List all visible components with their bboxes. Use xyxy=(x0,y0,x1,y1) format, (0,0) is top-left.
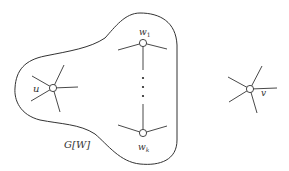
label-v: v xyxy=(261,88,266,98)
label-region-gw: G[W] xyxy=(64,139,90,150)
diagram-canvas: u w1 wk G[W] xyxy=(0,0,289,171)
node-wk-edges xyxy=(118,104,167,133)
label-w1: w1 xyxy=(139,27,151,38)
node-v xyxy=(246,85,253,92)
label-wk: wk xyxy=(138,142,150,153)
node-w1 xyxy=(139,39,146,46)
vertical-ellipsis xyxy=(142,77,144,97)
node-wk xyxy=(139,129,146,136)
node-w1-edges xyxy=(118,43,167,70)
label-u: u xyxy=(33,83,39,94)
node-u xyxy=(49,84,56,91)
